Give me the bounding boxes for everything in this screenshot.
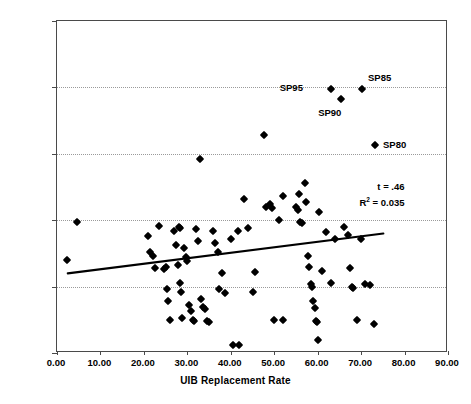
x-axis-tick <box>448 351 449 355</box>
x-axis-tick-label: 0.00 <box>47 357 66 368</box>
x-axis-tick <box>231 351 232 355</box>
x-axis-tick-label: 80.00 <box>392 357 416 368</box>
x-axis-tick <box>274 351 275 355</box>
statistics-annotation: t = .46 R2 = 0.035 <box>327 180 405 209</box>
x-axis-tick-label: 90.00 <box>435 357 459 368</box>
plot-area: SP95SP90SP85SP80 t = .46 R2 = 0.035 <box>56 20 447 352</box>
r-squared-text: R2 = 0.035 <box>327 193 405 209</box>
scatter-chart-figure: Unemployment Rate UIB Replacement Rate S… <box>0 0 471 404</box>
t-statistic-text: t = .46 <box>327 180 405 193</box>
x-axis-title: UIB Replacement Rate <box>0 375 471 386</box>
point-label-sp90: SP90 <box>318 107 341 118</box>
x-axis-tick <box>100 351 101 355</box>
x-axis-tick <box>187 351 188 355</box>
point-label-sp85: SP85 <box>368 72 391 83</box>
x-axis-tick <box>144 351 145 355</box>
x-axis-tick-label: 30.00 <box>174 357 198 368</box>
x-axis-tick <box>405 351 406 355</box>
point-label-sp80: SP80 <box>383 139 406 150</box>
x-axis-tick-label: 60.00 <box>305 357 329 368</box>
x-axis-tick-label: 70.00 <box>348 357 372 368</box>
x-axis-tick-label: 10.00 <box>88 357 112 368</box>
x-axis-tick <box>318 351 319 355</box>
x-axis-tick-label: 40.00 <box>218 357 242 368</box>
x-axis-tick <box>57 351 58 355</box>
x-axis-tick-label: 20.00 <box>131 357 155 368</box>
x-axis-tick-label: 50.00 <box>261 357 285 368</box>
point-label-sp95: SP95 <box>280 82 303 93</box>
r-squared-value: = 0.035 <box>370 197 405 208</box>
x-axis-tick <box>361 351 362 355</box>
